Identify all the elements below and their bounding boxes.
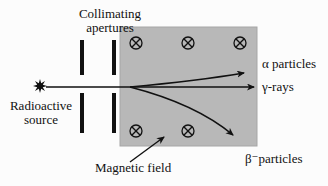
aperture-bar-right-upper [112,40,116,75]
collimating-apertures-label-line2: apertures [86,20,134,35]
aperture-bar-right-lower [112,93,116,133]
diagram-canvas: Collimating apertures Radioactive source… [0,0,328,186]
beta-particles-label: β⁻particles [245,151,303,166]
radioactive-source-icon [33,79,47,93]
radioactive-source-label-line2: source [24,112,58,127]
aperture-bar-left-upper [80,40,84,75]
alpha-particles-label: α particles [262,56,316,71]
physics-diagram: Collimating apertures Radioactive source… [0,0,328,186]
magnetic-field-label: Magnetic field [95,160,172,175]
aperture-bar-left-lower [80,93,84,133]
gamma-rays-label: γ-rays [261,79,294,94]
